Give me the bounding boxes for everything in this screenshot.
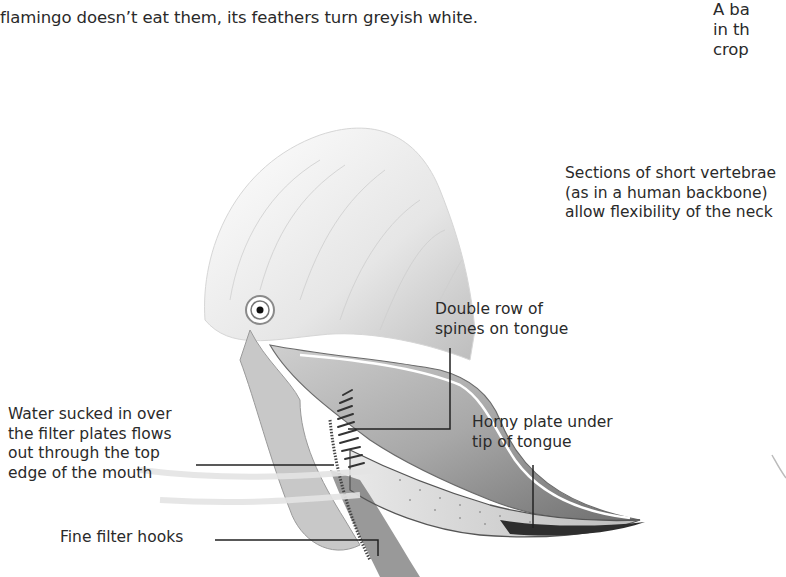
intro-paragraph: flamingo doesn’t eat them, its feathers …: [0, 8, 478, 28]
side-note-line: A ba: [713, 0, 750, 20]
callout-line: Fine filter hooks: [60, 528, 183, 548]
callout-line: allow flexibility of the neck: [565, 203, 776, 223]
intro-line: flamingo doesn’t eat them, its feathers …: [0, 8, 478, 27]
flamingo-head-illustration: [0, 0, 786, 577]
side-note-line: crop: [713, 40, 750, 60]
callout-water: Water sucked in over the filter plates f…: [8, 405, 172, 483]
callout-line: Double row of: [435, 300, 568, 320]
callout-line: Horny plate under: [472, 413, 613, 433]
callout-spines: Double row of spines on tongue: [435, 300, 568, 339]
callout-line: spines on tongue: [435, 320, 568, 340]
callout-line: tip of tongue: [472, 433, 613, 453]
callout-vertebrae: Sections of short vertebrae (as in a hum…: [565, 164, 776, 223]
callout-line: (as in a human backbone): [565, 184, 776, 204]
side-note-line: in th: [713, 20, 750, 40]
callout-line: edge of the mouth: [8, 464, 172, 484]
callout-filter-hooks: Fine filter hooks: [60, 528, 183, 548]
callout-line: out through the top: [8, 444, 172, 464]
callout-line: the filter plates flows: [8, 425, 172, 445]
callout-line: Sections of short vertebrae: [565, 164, 776, 184]
side-note: A ba in th crop: [713, 0, 750, 60]
callout-horny-plate: Horny plate under tip of tongue: [472, 413, 613, 452]
callout-line: Water sucked in over: [8, 405, 172, 425]
